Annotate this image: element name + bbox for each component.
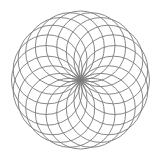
rosette-figure [0, 0, 168, 162]
rosette-svg [0, 0, 168, 162]
